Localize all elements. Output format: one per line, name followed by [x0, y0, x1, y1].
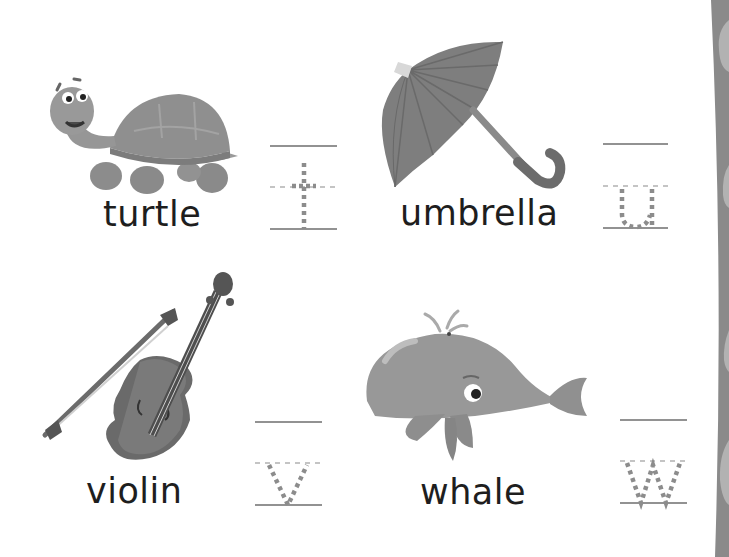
turtle-picture — [44, 76, 239, 196]
violin-picture — [40, 270, 240, 462]
letter-trace-u[interactable]: u — [603, 143, 669, 229]
word-violin: violin — [86, 474, 182, 509]
letter-trace-v[interactable]: v — [255, 421, 323, 507]
word-umbrella: umbrella — [400, 196, 559, 231]
word-whale: whale — [420, 475, 526, 510]
whale-picture — [355, 306, 595, 466]
side-decorative-strip — [689, 0, 729, 557]
word-turtle: turtle — [103, 197, 201, 232]
letter-trace-w[interactable]: w — [620, 419, 688, 505]
umbrella-picture — [378, 40, 568, 190]
letter-trace-t[interactable]: t — [270, 145, 338, 231]
